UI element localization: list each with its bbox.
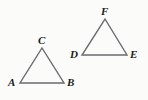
vertex-label-c: C — [38, 35, 45, 46]
vertex-label-e: E — [130, 49, 137, 60]
vertex-label-f: F — [101, 6, 108, 17]
geometry-figure: A B C D E F — [0, 0, 148, 100]
triangle-def-outline — [82, 19, 127, 55]
vertex-label-d: D — [70, 49, 78, 60]
vertex-label-b: B — [67, 77, 74, 88]
triangle-abc-outline — [20, 48, 64, 83]
vertex-label-a: A — [8, 77, 15, 88]
